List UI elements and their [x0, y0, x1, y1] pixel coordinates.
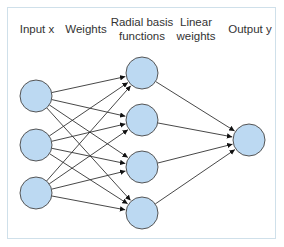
edge-h4-y: [155, 150, 235, 204]
rbf-node-h2: [126, 104, 158, 136]
input-node-x1: [20, 80, 52, 112]
edge-h1-y: [156, 81, 235, 130]
edge-x1-h1: [52, 77, 126, 93]
edge-x3-h1: [47, 86, 131, 181]
rbf-node-h4: [126, 197, 158, 229]
edge-x2-h3: [52, 148, 126, 163]
input-node-x3: [20, 177, 52, 209]
output-node-y: [233, 124, 265, 156]
rbf-node-h1: [126, 57, 158, 89]
edge-x3-h4: [52, 196, 126, 210]
edge-h2-y: [158, 123, 233, 137]
rbf-node-h3: [126, 151, 158, 183]
edge-x3-h3: [52, 171, 126, 189]
edge-x3-h2: [49, 130, 128, 184]
network-graph: [0, 0, 284, 247]
edge-x1-h4: [47, 108, 131, 201]
edge-x1-h3: [49, 105, 128, 158]
edge-h3-y: [158, 144, 233, 163]
input-node-x2: [20, 129, 52, 161]
